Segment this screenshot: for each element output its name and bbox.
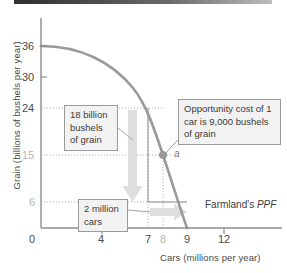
y-tick-label-36: 36 — [22, 40, 34, 53]
callout-opportunity-cost: Opportunity cost of 1 car is 9,000 bushe… — [178, 99, 281, 145]
y-tick-label-30: 30 — [22, 71, 34, 84]
point-a-label: a — [174, 148, 180, 160]
x-tick-label-12: 12 — [218, 233, 230, 246]
y-tick-label-15: 15 — [22, 149, 34, 162]
y-tick-label-24: 24 — [22, 102, 34, 115]
y-tick-label-6: 6 — [29, 196, 35, 209]
grain-decrease-arrow — [123, 110, 143, 202]
callout-grain-decrease: 18 billion bushels of grain — [64, 105, 118, 151]
x-tick-label-9: 9 — [184, 233, 190, 246]
x-tick-label-4: 4 — [98, 233, 104, 246]
point-a-marker — [159, 151, 166, 158]
x-tick-label-8: 8 — [160, 233, 166, 246]
y-axis-title: Grain (billions of bushels per year) — [12, 40, 23, 190]
x-tick-label-7: 7 — [145, 233, 151, 246]
y-tick-label-0: 0 — [29, 233, 35, 246]
ppf-label-italic: PPF — [257, 199, 276, 210]
callout-cars-increase: 2 million cars — [78, 199, 128, 232]
leader-cars-box — [128, 210, 150, 212]
ppf-label-prefix: Farmland's — [205, 199, 257, 210]
ppf-curve-label: Farmland's PPF — [205, 199, 276, 211]
y-tick-marks — [41, 46, 47, 77]
ppf-chart-figure: 36 30 24 15 6 0 4 7 8 9 12 Grain (billio… — [0, 0, 287, 273]
x-axis-title: Cars (millions per year) — [160, 253, 261, 264]
